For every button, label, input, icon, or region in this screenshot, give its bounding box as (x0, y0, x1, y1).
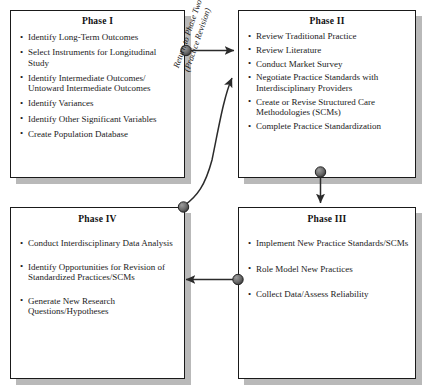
phase-1-list: Identify Long-Term Outcomes Select Instr… (20, 32, 179, 139)
list-item: Review Traditional Practice (248, 31, 411, 42)
list-item: Complete Practice Standardization (248, 121, 411, 132)
phase-4-title: Phase IV (11, 214, 184, 224)
list-item: Identify Intermediate Outcomes/ Untoward… (20, 73, 179, 94)
phase-4-list: Conduct Interdisciplinary Data Analysis … (20, 238, 182, 317)
list-item: Role Model New Practices (248, 264, 410, 275)
phase-3-list: Implement New Practice Standards/SCMs Ro… (248, 238, 410, 300)
phase-2-title: Phase II (239, 16, 415, 26)
list-item: Collect Data/Assess Reliability (248, 289, 410, 300)
phase-4-box[interactable]: Phase IV Conduct Interdisciplinary Data … (10, 207, 185, 379)
list-item: Select Instruments for Longitudinal Stud… (20, 47, 179, 68)
flowchart-diagram: Phase I Identify Long-Term Outcomes Sele… (0, 0, 428, 392)
flow-phase4-to-phase2-feedback (185, 78, 232, 205)
list-item: Negotiate Practice Standards with Interd… (248, 72, 411, 93)
phase-1-box[interactable]: Phase I Identify Long-Term Outcomes Sele… (10, 10, 185, 178)
phase-2-box[interactable]: Phase II Review Traditional Practice Rev… (238, 10, 416, 178)
phase-1-title: Phase I (11, 16, 184, 26)
list-item: Review Literature (248, 45, 411, 56)
list-item: Identify Opportunities for Revision of S… (20, 262, 182, 283)
list-item: Create Population Database (20, 129, 179, 140)
list-item: Implement New Practice Standards/SCMs (248, 238, 410, 249)
list-item: Conduct Market Survey (248, 59, 411, 70)
phase-3-title: Phase III (239, 214, 415, 224)
phase-2-list: Review Traditional Practice Review Liter… (248, 31, 411, 132)
list-item: Create or Revise Structured Care Methodo… (248, 97, 411, 118)
list-item: Conduct Interdisciplinary Data Analysis (20, 238, 182, 249)
list-item: Identify Other Significant Variables (20, 114, 179, 125)
list-item: Generate New Research Questions/Hypothes… (20, 296, 182, 317)
phase-3-box[interactable]: Phase III Implement New Practice Standar… (238, 207, 416, 379)
list-item: Identify Long-Term Outcomes (20, 32, 179, 43)
list-item: Identify Variances (20, 98, 179, 109)
